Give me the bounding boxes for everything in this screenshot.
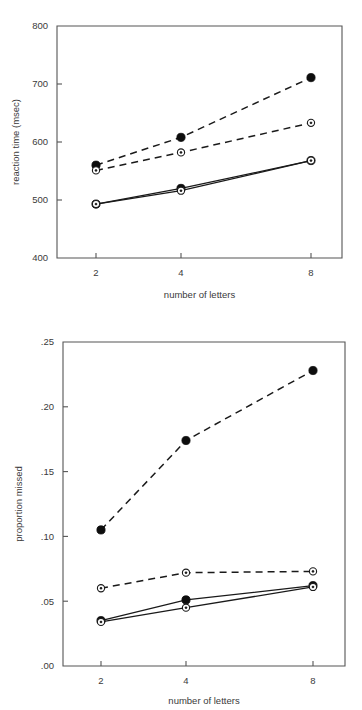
data-point-marker-open-center bbox=[180, 152, 182, 154]
y-tick-label: .25 bbox=[41, 336, 54, 347]
series-line-solid-filled bbox=[96, 161, 311, 205]
y-tick-label: .20 bbox=[41, 401, 54, 412]
reaction-time-figure: 400500600700800248number of lettersreact… bbox=[0, 0, 362, 320]
data-point-marker-open-center bbox=[100, 621, 102, 623]
y-axis-title: proportion missed bbox=[13, 466, 24, 542]
x-axis-title: number of letters bbox=[168, 695, 240, 706]
proportion-missed-figure: .00.05.10.15.20.25248number of letterspr… bbox=[0, 320, 362, 710]
y-tick-label: 400 bbox=[32, 252, 48, 263]
x-tick-label: 4 bbox=[178, 267, 183, 278]
y-tick-label: .00 bbox=[41, 660, 54, 671]
data-point-marker-open-center bbox=[312, 586, 314, 588]
plot-frame bbox=[57, 26, 342, 258]
data-point-marker-filled bbox=[307, 74, 315, 82]
data-point-marker-filled bbox=[177, 133, 185, 141]
y-tick-label: .15 bbox=[41, 466, 54, 477]
y-tick-label: 700 bbox=[32, 78, 48, 89]
reaction-time-chart-canvas: 400500600700800248number of lettersreact… bbox=[0, 0, 362, 320]
series-line-dashed-open bbox=[101, 571, 313, 588]
y-axis-title: reaction time (msec) bbox=[10, 99, 21, 185]
x-axis-title: number of letters bbox=[164, 289, 236, 300]
data-point-marker-open-center bbox=[100, 587, 102, 589]
x-tick-label: 4 bbox=[183, 675, 188, 686]
data-point-marker-open-center bbox=[95, 203, 97, 205]
data-point-marker-open-center bbox=[185, 572, 187, 574]
series-line-dashed-open bbox=[96, 123, 311, 171]
data-point-marker-filled bbox=[309, 366, 317, 374]
series-line-solid-filled bbox=[101, 586, 313, 621]
data-point-marker-filled bbox=[182, 436, 190, 444]
y-tick-label: .10 bbox=[41, 531, 54, 542]
plot-frame bbox=[63, 342, 345, 666]
series-line-dashed-filled bbox=[101, 371, 313, 530]
y-tick-label: 500 bbox=[32, 194, 48, 205]
x-tick-label: 2 bbox=[93, 267, 98, 278]
y-tick-label: 600 bbox=[32, 136, 48, 147]
data-point-marker-filled bbox=[97, 526, 105, 534]
data-point-marker-open-center bbox=[310, 160, 312, 162]
x-tick-label: 8 bbox=[310, 675, 315, 686]
data-point-marker-open-center bbox=[185, 607, 187, 609]
series-line-solid-open bbox=[101, 587, 313, 622]
data-point-marker-open-center bbox=[180, 190, 182, 192]
series-line-dashed-filled bbox=[96, 78, 311, 166]
data-point-marker-filled bbox=[182, 596, 190, 604]
x-tick-label: 8 bbox=[308, 267, 313, 278]
proportion-missed-chart-canvas: .00.05.10.15.20.25248number of letterspr… bbox=[0, 320, 362, 710]
data-point-marker-open-center bbox=[310, 122, 312, 124]
data-point-marker-open-center bbox=[312, 570, 314, 572]
x-tick-label: 2 bbox=[98, 675, 103, 686]
data-point-marker-open-center bbox=[95, 170, 97, 172]
y-tick-label: 800 bbox=[32, 20, 48, 31]
y-tick-label: .05 bbox=[41, 596, 54, 607]
